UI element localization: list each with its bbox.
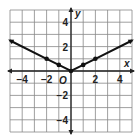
x-tick-label: −2	[41, 74, 53, 85]
data-point	[81, 63, 86, 68]
y-tick-label: 4	[62, 17, 68, 28]
y-tick-label: −2	[57, 90, 69, 101]
coordinate-plane: −4−22442−2−4 x y O	[0, 0, 137, 139]
x-axis-label: x	[123, 58, 130, 69]
x-tick-label: 2	[93, 74, 99, 85]
data-point	[69, 69, 74, 74]
y-tick-label: 2	[62, 42, 68, 53]
data-point	[57, 63, 62, 68]
origin-label: O	[59, 75, 67, 86]
x-tick-label: 4	[117, 74, 123, 85]
x-tick-label: −4	[16, 74, 28, 85]
data-point	[93, 57, 98, 62]
y-axis-label: y	[74, 8, 81, 19]
y-tick-label: −4	[57, 115, 69, 126]
data-point	[44, 57, 49, 62]
